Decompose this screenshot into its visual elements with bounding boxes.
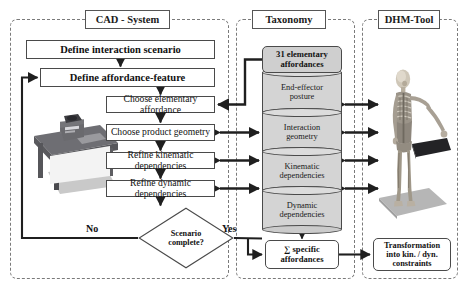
branch-label-no: No (86, 223, 98, 234)
step-define-affordance-feature[interactable]: Define affordance-feature (40, 68, 215, 87)
db-layer-cap-bottom-icon (262, 225, 342, 234)
step-choose-product-geometry[interactable]: Choose product geometry (106, 124, 215, 141)
step-refine-kinematic-dependencies[interactable]: Refine kinematic dependencies (106, 152, 215, 169)
db-layer-label-line1: Interaction (263, 122, 341, 131)
dhm-result-line2: into kin. / dyn. (384, 250, 440, 259)
db-layer-kinematic-dependencies[interactable]: Kinematic dependencies (262, 151, 342, 190)
db-layer-cap-top-icon (262, 108, 342, 117)
db-layer-label-line1: Dynamic (263, 200, 341, 209)
db-layer-label-line2: dependencies (263, 210, 341, 219)
group-title-cad-system: CAD - System (85, 10, 170, 29)
decision-label: Scenario complete? (138, 229, 234, 248)
dhm-result-transformation-constraints[interactable]: Transformation into kin. / dyn. constrai… (373, 238, 451, 271)
dhm-result-line3: constraints (384, 259, 440, 268)
taxonomy-result-line2: affordances (281, 255, 324, 265)
branch-label-yes: Yes (222, 223, 236, 234)
step-refine-dynamic-dependencies[interactable]: Refine dynamic dependencies (106, 180, 215, 197)
db-layer-label-line2: dependencies (263, 171, 341, 180)
step-define-interaction-scenario[interactable]: Define interaction scenario (26, 40, 215, 59)
step-choose-elementary-affordance[interactable]: Choose elementary affordance (106, 96, 215, 113)
db-layer-label: Dynamic dependencies (263, 200, 341, 219)
dhm-human-model-illustration (371, 58, 455, 230)
db-layer-dynamic-dependencies[interactable]: Dynamic dependencies (262, 190, 342, 229)
taxonomy-header-31-elementary-affordances[interactable]: 31 elementary affordances (262, 46, 342, 73)
db-layer-label-line2: posture (263, 92, 341, 101)
diagram-canvas: CAD - System Taxonomy DHM-Tool (0, 0, 464, 296)
group-title-taxonomy: Taxonomy (252, 10, 326, 29)
db-layer-interaction-geometry[interactable]: Interaction geometry (262, 112, 342, 151)
db-layer-end-effector-posture[interactable]: End-effector posture (262, 72, 342, 112)
db-layer-cap-top-icon (262, 147, 342, 156)
decision-label-line2: complete? (138, 238, 234, 247)
decision-label-line1: Scenario (138, 229, 234, 238)
db-layer-label-line1: Kinematic (263, 161, 341, 170)
db-layer-label: Kinematic dependencies (263, 161, 341, 180)
db-layer-label: Interaction geometry (263, 122, 341, 141)
group-title-dhm-tool: DHM-Tool (378, 10, 440, 29)
db-layer-label: End-effector posture (263, 83, 341, 102)
taxonomy-header-line2: affordances (276, 60, 328, 70)
taxonomy-result-sum-specific-affordances[interactable]: ∑ specific affordances (265, 240, 339, 269)
dhm-result-line1: Transformation (384, 241, 440, 250)
db-layer-cap-top-icon (262, 186, 342, 195)
db-layer-label-line1: End-effector (263, 83, 341, 92)
taxonomy-database-stack: End-effector posture Interaction geometr… (262, 72, 342, 229)
db-layer-label-line2: geometry (263, 132, 341, 141)
decision-scenario-complete[interactable]: Scenario complete? (138, 207, 234, 269)
